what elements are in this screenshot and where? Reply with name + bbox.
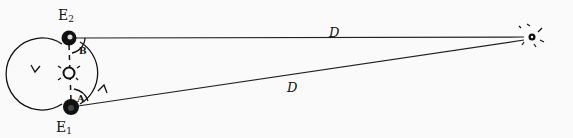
sightline-e2-star: [76, 37, 524, 38]
parallax-diagram: E2 E1 B A D D: [0, 0, 573, 138]
earth-2-icon: [62, 31, 77, 46]
label-earth-1: E1: [56, 119, 72, 136]
label-angle-b: B: [79, 46, 87, 56]
label-distance-top: D: [328, 25, 340, 40]
label-earth-2: E2: [58, 7, 74, 24]
star-icon: [519, 24, 544, 47]
orbit-arrow-right-icon: [98, 85, 107, 93]
sightline-e1-star: [78, 40, 524, 106]
sun-icon: [58, 66, 80, 80]
label-distance-bottom: D: [286, 80, 298, 95]
orbit-arrow-left-icon: [31, 65, 40, 72]
label-angle-a: A: [76, 93, 85, 104]
orbit: [6, 38, 107, 110]
